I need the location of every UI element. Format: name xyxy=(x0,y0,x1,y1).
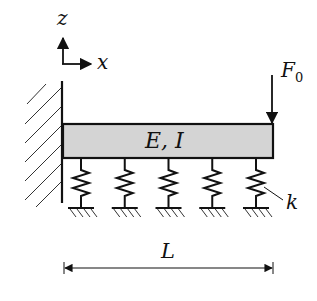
spring-coil-icon xyxy=(161,158,177,208)
fixed-wall xyxy=(25,81,62,207)
beam-diagram: z x E, I F0 k L xyxy=(0,0,317,301)
ground-hatch xyxy=(158,209,164,217)
ground-hatch xyxy=(208,209,214,217)
ground-hatch xyxy=(128,209,134,217)
spring xyxy=(243,158,272,217)
x-axis-label: x xyxy=(97,52,108,72)
ground-hatch xyxy=(201,209,207,217)
ground-hatch xyxy=(121,209,127,217)
coordinate-axes xyxy=(62,38,91,64)
spring-coil-icon xyxy=(204,158,220,208)
spring-stiffness-label: k xyxy=(286,192,298,212)
ground-hatch xyxy=(165,209,171,217)
spring xyxy=(156,158,185,217)
spring xyxy=(68,158,97,217)
force-label: F0 xyxy=(281,60,303,84)
spring-foundation xyxy=(68,158,272,217)
spring-leader-line xyxy=(264,187,283,200)
spring-coil-icon xyxy=(73,158,89,208)
z-axis-label: z xyxy=(57,8,68,28)
ground-hatch xyxy=(91,209,97,217)
ground-hatch xyxy=(215,209,221,217)
ground-hatch xyxy=(259,209,265,217)
spring-coil-icon xyxy=(248,158,264,208)
length-dimension xyxy=(64,262,273,274)
spring-coil-icon xyxy=(117,158,133,208)
ground-hatch xyxy=(135,209,141,217)
spring xyxy=(199,158,228,217)
ground-hatch xyxy=(179,209,185,217)
ground-hatch xyxy=(77,209,83,217)
force-subscript: 0 xyxy=(295,70,303,85)
ground-hatch xyxy=(222,209,228,217)
ground-hatch xyxy=(252,209,258,217)
ground-hatch xyxy=(70,209,76,217)
length-label: L xyxy=(161,241,175,262)
beam-properties-label: E, I xyxy=(145,130,184,152)
ground-hatch xyxy=(266,209,272,217)
ground-hatch xyxy=(172,209,178,217)
force-symbol: F xyxy=(281,58,295,82)
ground-hatch xyxy=(114,209,120,217)
ground-hatch xyxy=(245,209,251,217)
wall-hatching xyxy=(25,84,61,207)
ground-hatch xyxy=(84,209,90,217)
spring xyxy=(112,158,141,217)
